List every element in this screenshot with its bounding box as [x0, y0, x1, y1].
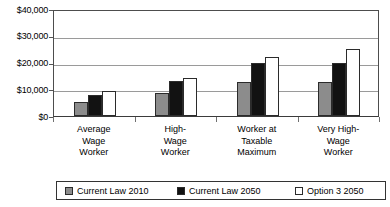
x-axis-tick	[216, 117, 217, 122]
legend-item: Current Law 2050	[177, 185, 261, 197]
y-axis-tick	[49, 64, 53, 65]
y-axis-tick-label: $20,000	[0, 59, 48, 68]
legend-item: Current Law 2010	[65, 185, 149, 197]
bar	[346, 49, 360, 116]
legend-swatch-icon	[295, 187, 303, 195]
x-axis-category-label: Very High- Wage Worker	[298, 124, 380, 159]
legend-item: Option 3 2050	[295, 185, 364, 197]
bar	[169, 81, 183, 116]
x-axis-category-label: Worker at Taxable Maximum	[216, 124, 298, 159]
plot-area	[53, 10, 379, 117]
bar	[74, 102, 88, 116]
y-axis-tick	[49, 90, 53, 91]
x-axis-tick	[298, 117, 299, 122]
x-axis-category-label: Average Wage Worker	[53, 124, 135, 159]
bar-group	[217, 11, 299, 116]
bar	[251, 63, 265, 117]
x-axis-category-label: High- Wage Worker	[135, 124, 217, 159]
bar-chart: $0$10,000$20,000$30,000$40,000 Current L…	[0, 0, 390, 207]
y-axis-tick	[49, 37, 53, 38]
bar-group	[136, 11, 218, 116]
legend-label: Current Law 2010	[77, 186, 149, 196]
y-axis-tick-label: $30,000	[0, 32, 48, 41]
chart-legend: Current Law 2010Current Law 2050Option 3…	[56, 181, 386, 200]
legend-label: Current Law 2050	[189, 186, 261, 196]
legend-swatch-icon	[65, 187, 73, 195]
legend-swatch-icon	[177, 187, 185, 195]
bar-group	[299, 11, 381, 116]
bar	[102, 91, 116, 116]
x-axis-tick	[135, 117, 136, 122]
bar	[265, 57, 279, 116]
bar	[88, 95, 102, 116]
bar-group	[54, 11, 136, 116]
bar	[237, 82, 251, 116]
y-axis-tick	[49, 10, 53, 11]
x-axis-tick	[53, 117, 54, 122]
legend-label: Option 3 2050	[307, 186, 364, 196]
x-axis-tick	[379, 117, 380, 122]
bar	[318, 82, 332, 116]
bar	[155, 93, 169, 116]
bar	[183, 78, 197, 116]
y-axis: $0$10,000$20,000$30,000$40,000	[0, 0, 48, 125]
y-axis-tick-label: $0	[0, 113, 48, 122]
bar	[332, 63, 346, 117]
y-axis-tick-label: $40,000	[0, 6, 48, 15]
y-axis-tick-label: $10,000	[0, 86, 48, 95]
